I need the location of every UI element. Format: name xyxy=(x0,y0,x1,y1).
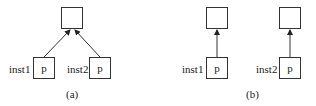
b-inst2-box: p xyxy=(279,57,301,79)
edge-a-inst2-to-top xyxy=(75,30,100,57)
a-inst1-label: inst1 xyxy=(9,63,30,75)
b-caption: (b) xyxy=(246,88,259,100)
a-inst2-box: p xyxy=(89,57,111,79)
edges-layer xyxy=(0,0,316,106)
a-top-box xyxy=(61,7,83,29)
b-inst2-label: inst2 xyxy=(256,63,277,75)
a-caption: (a) xyxy=(66,88,78,100)
b-left-top-box xyxy=(206,7,228,29)
b-inst1-box: p xyxy=(206,57,228,79)
a-inst1-box: p xyxy=(33,57,55,79)
b-inst1-label: inst1 xyxy=(182,63,203,75)
b-right-top-box xyxy=(279,7,301,29)
a-inst2-label: inst2 xyxy=(67,63,88,75)
edge-a-inst1-to-top xyxy=(44,30,70,57)
